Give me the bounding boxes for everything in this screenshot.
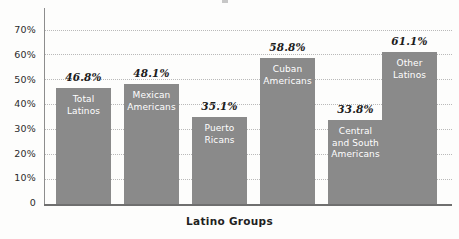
bar-category-label: Total Latinos xyxy=(56,94,111,117)
y-tick-60: 60% xyxy=(0,49,36,60)
bar-label-line-1: Other xyxy=(382,58,437,70)
bar-category-label: Puerto Ricans xyxy=(192,123,247,146)
bar-label-line-2: Latinos xyxy=(382,70,437,82)
bar-rect[interactable]: Central and South Americans xyxy=(328,120,383,204)
y-tick-30: 30% xyxy=(0,123,36,134)
bar-category-label: Mexican Americans xyxy=(124,90,179,113)
bar-rect[interactable]: Mexican Americans xyxy=(124,84,179,204)
bar-group-other-latinos[interactable]: 61.1% Other Latinos xyxy=(382,7,437,204)
bar-label-line-1: Central xyxy=(328,126,383,138)
bar-label-line-1: Cuban xyxy=(260,64,315,76)
bar-category-label: Other Latinos xyxy=(382,58,437,81)
bar-value-label: 48.1% xyxy=(110,67,193,79)
bar-rect[interactable]: Other Latinos xyxy=(382,52,437,204)
bar-group-total-latinos[interactable]: 46.8% Total Latinos xyxy=(56,7,111,204)
bar-label-line-1: Total xyxy=(56,94,111,106)
bar-group-mexican-americans[interactable]: 48.1% Mexican Americans xyxy=(124,7,179,204)
y-tick-50: 50% xyxy=(0,74,36,85)
bar-value-label: 58.8% xyxy=(246,41,329,53)
bar-label-line-2: Americans xyxy=(260,76,315,88)
y-tick-40: 40% xyxy=(0,98,36,109)
y-tick-20: 20% xyxy=(0,148,36,159)
bar-label-line-1: Mexican xyxy=(124,90,179,102)
bar-label-line-2: and South xyxy=(328,138,383,150)
y-tick-70: 70% xyxy=(0,24,36,35)
bar-rect[interactable]: Total Latinos xyxy=(56,88,111,204)
bar-label-line-3: Americans xyxy=(328,149,383,161)
plot-area: 46.8% Total Latinos 48.1% Mexican Americ… xyxy=(44,8,452,205)
bar-category-label: Cuban Americans xyxy=(260,64,315,87)
bar-value-label: 61.1% xyxy=(368,35,451,47)
bar-group-cuban-americans[interactable]: 58.8% Cuban Americans xyxy=(260,7,315,204)
bar-rect[interactable]: Cuban Americans xyxy=(260,58,315,204)
bar-label-line-2: Ricans xyxy=(192,135,247,147)
bar-group-puerto-ricans[interactable]: 35.1% Puerto Ricans xyxy=(192,7,247,204)
bar-label-line-2: Latinos xyxy=(56,106,111,118)
bar-rect[interactable]: Puerto Ricans xyxy=(192,117,247,204)
x-axis-line xyxy=(44,204,452,206)
bar-label-line-2: Americans xyxy=(124,102,179,114)
y-tick-0: 0 xyxy=(0,197,36,208)
cropped-title-artifact xyxy=(222,0,228,3)
x-axis-title: Latino Groups xyxy=(0,215,459,227)
bar-chart: 70% 60% 50% 40% 30% 20% 10% 0 46.8% Tota… xyxy=(0,0,459,239)
bar-label-line-1: Puerto xyxy=(192,123,247,135)
y-tick-10: 10% xyxy=(0,172,36,183)
bar-category-label: Central and South Americans xyxy=(328,126,383,161)
y-axis-line xyxy=(44,8,45,205)
bar-value-label: 35.1% xyxy=(178,100,261,112)
